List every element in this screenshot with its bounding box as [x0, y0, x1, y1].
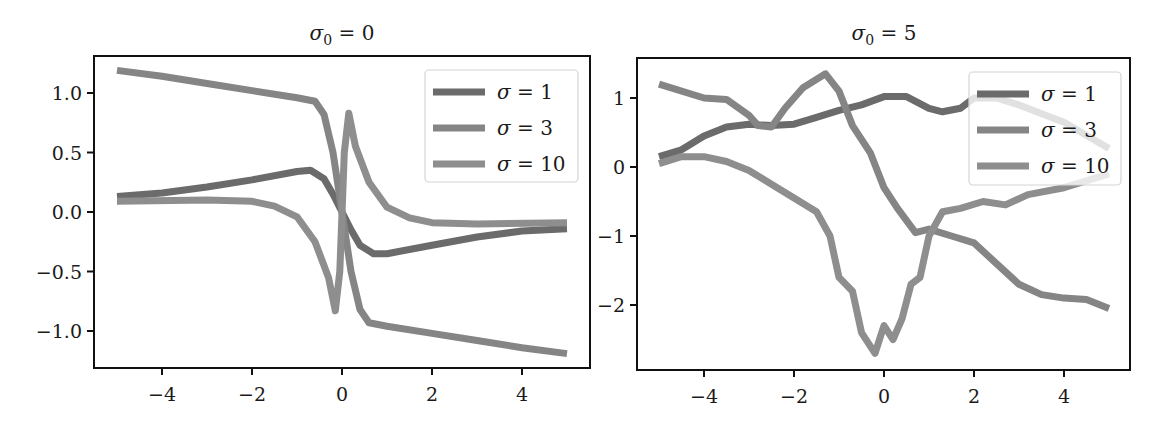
legend-label: σ = 10: [497, 152, 566, 176]
y-tick-label: 0: [613, 156, 625, 178]
x-tick-label: −4: [148, 383, 176, 405]
y-tick-label: −0.5: [36, 261, 82, 283]
y-tick-label: 1: [613, 87, 625, 109]
y-tick-label: −2: [597, 294, 625, 316]
x-tick-label: −4: [690, 385, 718, 407]
y-tick-label: −1: [597, 225, 625, 247]
legend-label: σ = 1: [497, 80, 553, 104]
x-tick-label: 4: [516, 383, 528, 405]
chart-right-legend: σ = 1σ = 3σ = 10: [969, 72, 1121, 185]
chart-right: σ0 = 5 10−1−2 −4−2024 σ = 1σ = 3σ = 10: [597, 21, 1130, 407]
x-tick-label: −2: [780, 385, 808, 407]
legend-label: σ = 10: [1041, 154, 1110, 178]
y-tick-label: −1.0: [36, 320, 82, 342]
x-tick-label: 2: [426, 383, 438, 405]
legend-label: σ = 1: [1041, 82, 1097, 106]
x-tick-label: −2: [238, 383, 266, 405]
y-tick-label: 0.0: [52, 201, 82, 223]
chart-left-y-axis: 1.00.50.0−0.5−1.0: [36, 82, 94, 342]
legend-label: σ = 3: [497, 116, 553, 140]
chart-left-legend: σ = 1σ = 3σ = 10: [425, 70, 578, 182]
x-tick-label: 0: [336, 383, 348, 405]
chart-left: σ0 = 0 1.00.50.0−0.5−1.0 −4−2024 σ = 1σ …: [36, 21, 590, 405]
chart-right-x-axis: −4−2024: [690, 370, 1070, 407]
x-tick-label: 2: [968, 385, 980, 407]
chart-right-title: σ0 = 5: [852, 21, 917, 48]
y-tick-label: 1.0: [52, 82, 82, 104]
x-tick-label: 0: [878, 385, 890, 407]
x-tick-label: 4: [1058, 385, 1070, 407]
figure: σ0 = 0 1.00.50.0−0.5−1.0 −4−2024 σ = 1σ …: [0, 0, 1154, 432]
chart-left-title: σ0 = 0: [310, 21, 375, 48]
legend-label: σ = 3: [1041, 118, 1097, 142]
chart-right-y-axis: 10−1−2: [597, 87, 637, 316]
y-tick-label: 0.5: [52, 142, 82, 164]
chart-left-x-axis: −4−2024: [148, 368, 528, 405]
